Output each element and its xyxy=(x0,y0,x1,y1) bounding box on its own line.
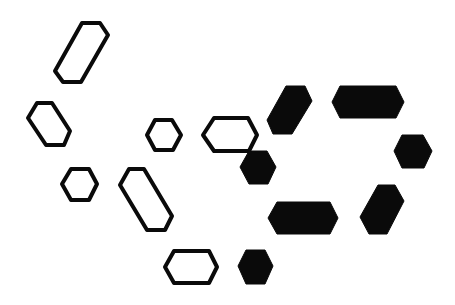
filled-tilted-top-hexagon xyxy=(267,86,312,134)
outline-elongated-bottom-hexagon xyxy=(120,169,172,230)
outline-hex-small-center xyxy=(147,120,181,150)
outline-hex-small-left xyxy=(62,169,97,200)
outline-wide-bottom-hexagon xyxy=(165,251,217,283)
outline-wide-center-hexagon xyxy=(203,118,257,151)
outline-hex-left xyxy=(28,103,70,145)
filled-hex-right xyxy=(394,135,432,168)
filled-wide-bottom-hexagon xyxy=(268,202,338,234)
outline-elongated-top-hexagon xyxy=(55,23,108,82)
filled-hex-bottom xyxy=(238,250,273,284)
filled-tilted-bottom-hexagon xyxy=(360,185,404,234)
hexagon-diagram xyxy=(0,0,455,305)
filled-hex-center xyxy=(240,151,276,184)
filled-wide-top-hexagon xyxy=(332,86,404,118)
